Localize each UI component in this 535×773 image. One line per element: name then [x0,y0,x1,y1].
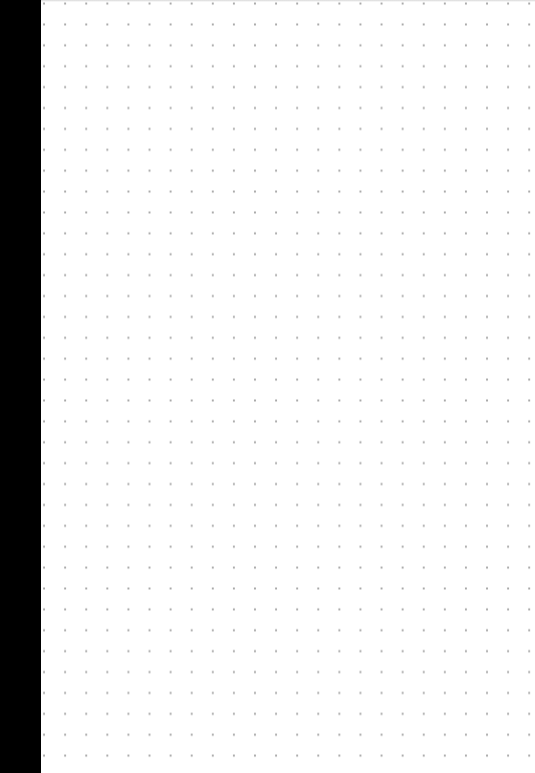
dot-grid-page [41,0,535,773]
page-top-edge [41,0,535,2]
binding-edge [0,0,41,773]
